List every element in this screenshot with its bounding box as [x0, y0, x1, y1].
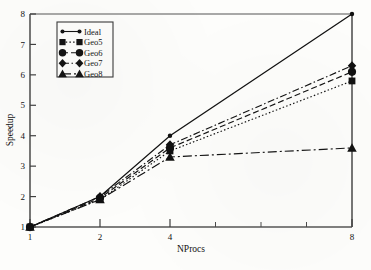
legend-marker: [59, 49, 66, 56]
y-tick-label: 8: [21, 9, 26, 19]
data-point: [168, 134, 172, 138]
legend-label: Geo6: [84, 48, 102, 58]
x-tick-label: 1: [28, 232, 33, 242]
legend-label: Ideal: [84, 27, 102, 37]
y-tick-label: 2: [21, 192, 26, 202]
y-tick-label: 4: [21, 131, 26, 141]
legend-label: Geo7: [84, 58, 102, 68]
y-tick-label: 6: [21, 70, 26, 80]
y-tick-label: 5: [21, 100, 26, 110]
y-axis-title: Speedup: [5, 113, 15, 146]
legend-label: Geo8: [84, 69, 102, 79]
speedup-chart: 12345678 1248 Speedup NProcs IdealGeo5Ge…: [0, 0, 371, 270]
chart-background: [0, 0, 371, 270]
data-point: [349, 78, 356, 85]
x-axis-title: NProcs: [177, 244, 205, 254]
chart-canvas: 12345678 1248 Speedup NProcs IdealGeo5Ge…: [0, 0, 371, 270]
y-tick-label: 7: [21, 40, 26, 50]
y-tick-label: 3: [21, 161, 26, 171]
legend-marker: [76, 39, 82, 45]
x-tick-label: 2: [98, 232, 103, 242]
chart-legend: IdealGeo5Geo6Geo7Geo8: [57, 22, 113, 79]
x-tick-label: 8: [350, 232, 355, 242]
legend-label: Geo5: [84, 37, 102, 47]
y-tick-label: 1: [21, 222, 26, 232]
legend-marker: [76, 49, 83, 56]
legend-marker: [59, 39, 65, 45]
x-tick-label: 4: [168, 232, 173, 242]
data-point: [350, 12, 354, 16]
legend-marker: [60, 29, 64, 33]
legend-marker: [77, 29, 81, 33]
